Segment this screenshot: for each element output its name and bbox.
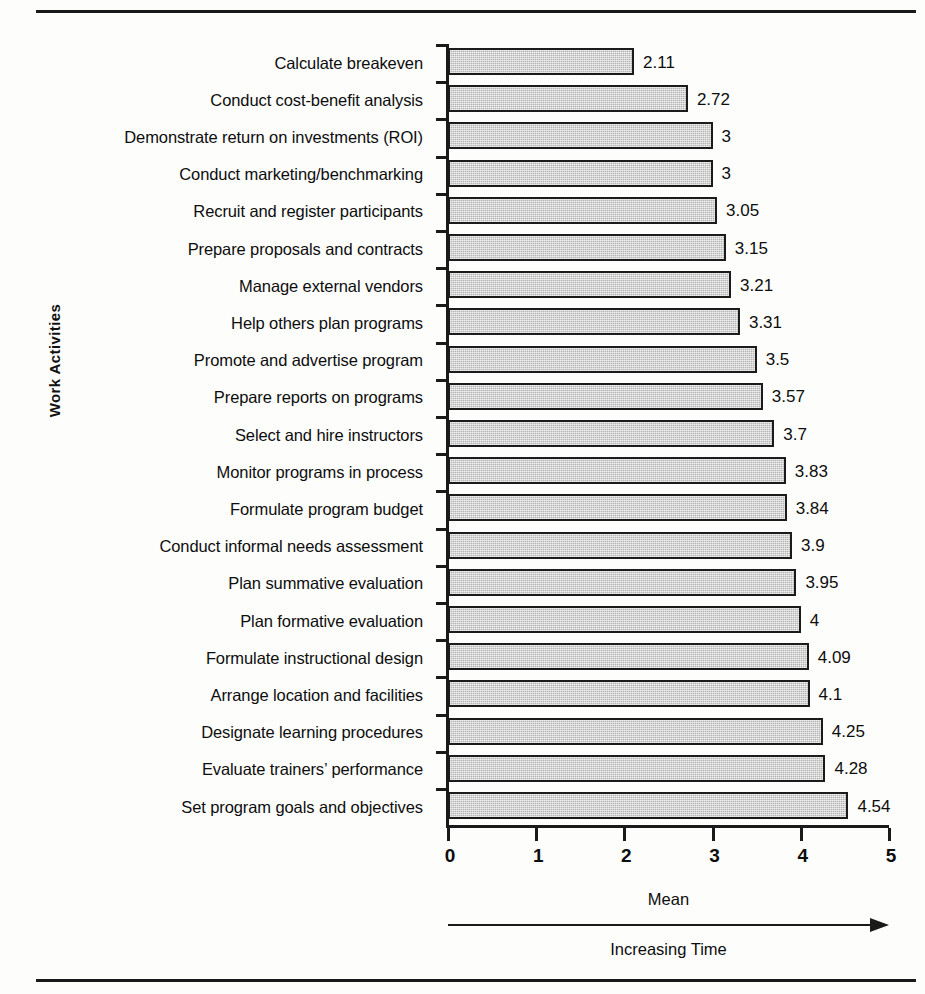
bar-row: Plan formative evaluation4: [0, 602, 925, 639]
arrow-line: [448, 924, 872, 926]
bar-row: Conduct informal needs assessment3.9: [0, 528, 925, 565]
bar-row: Arrange location and facilities4.1: [0, 676, 925, 713]
bar: [448, 606, 801, 633]
y-axis-tick: [436, 193, 448, 196]
y-axis-tick: [436, 156, 448, 159]
bar-value-label: 3.95: [805, 573, 838, 593]
x-axis-title: Mean: [448, 890, 889, 909]
y-axis-tick: [436, 230, 448, 233]
category-label: Help others plan programs: [231, 314, 423, 333]
category-label: Select and hire instructors: [235, 425, 423, 444]
bar: [448, 680, 810, 707]
category-label: Plan summative evaluation: [228, 574, 423, 593]
bar-value-label: 4: [810, 611, 819, 631]
y-axis-tick: [436, 602, 448, 605]
x-axis-tick-label: 5: [871, 845, 911, 867]
x-axis-tick: [712, 828, 715, 841]
bar: [448, 197, 717, 224]
bar: [448, 85, 688, 112]
y-axis-tick: [436, 453, 448, 456]
y-axis-tick: [436, 490, 448, 493]
category-label: Manage external vendors: [239, 276, 423, 295]
bar: [448, 569, 796, 596]
arrow-head-icon: [870, 918, 889, 932]
bar-value-label: 3.7: [783, 425, 807, 445]
bar: [448, 755, 825, 782]
plot-area: Calculate breakeven2.11Conduct cost-bene…: [0, 0, 925, 994]
y-axis-tick: [436, 639, 448, 642]
bar-value-label: 4.1: [819, 685, 843, 705]
category-label: Demonstrate return on investments (ROI): [124, 128, 423, 147]
x-axis-tick-label: 3: [695, 845, 735, 867]
bar-row: Evaluate trainers’ performance4.28: [0, 751, 925, 788]
bar-value-label: 3.9: [801, 536, 825, 556]
category-label: Formulate instructional design: [206, 648, 423, 667]
bar-value-label: 3: [722, 127, 731, 147]
y-axis-tick: [436, 304, 448, 307]
category-label: Plan formative evaluation: [240, 611, 423, 630]
category-label: Formulate program budget: [230, 500, 423, 519]
bar-row: Conduct marketing/benchmarking3: [0, 156, 925, 193]
bar-value-label: 3.83: [795, 462, 828, 482]
category-label: Evaluate trainers’ performance: [202, 760, 423, 779]
bar-row: Designate learning procedures4.25: [0, 714, 925, 751]
bar-value-label: 2.72: [697, 90, 730, 110]
category-label: Calculate breakeven: [274, 53, 423, 72]
category-label: Designate learning procedures: [201, 723, 423, 742]
y-axis-tick: [436, 416, 448, 419]
x-axis-tick: [800, 828, 803, 841]
bar: [448, 494, 787, 521]
category-label: Prepare reports on programs: [214, 388, 423, 407]
category-label: Monitor programs in process: [217, 462, 423, 481]
bar-row: Calculate breakeven2.11: [0, 44, 925, 81]
figure-container: Work Activities Calculate breakeven2.11C…: [0, 0, 925, 994]
category-label: Promote and advertise program: [194, 351, 423, 370]
bar-value-label: 4.28: [834, 759, 867, 779]
x-axis-tick: [623, 828, 626, 841]
bar-row: Formulate instructional design4.09: [0, 639, 925, 676]
bar: [448, 643, 809, 670]
y-axis-tick: [436, 565, 448, 568]
bar: [448, 792, 848, 819]
category-label: Conduct marketing/benchmarking: [179, 165, 423, 184]
bar: [448, 271, 731, 298]
bar-row: Select and hire instructors3.7: [0, 416, 925, 453]
x-axis-tick-label: 1: [518, 845, 558, 867]
bar-row: Prepare proposals and contracts3.15: [0, 230, 925, 267]
bar-row: Help others plan programs3.31: [0, 304, 925, 341]
bar-value-label: 4.09: [818, 648, 851, 668]
category-label: Recruit and register participants: [193, 202, 423, 221]
bar: [448, 234, 726, 261]
x-axis-tick-label: 4: [783, 845, 823, 867]
bar-value-label: 3.5: [766, 350, 790, 370]
y-axis-tick: [436, 676, 448, 679]
bar-row: Formulate program budget3.84: [0, 490, 925, 527]
bar: [448, 383, 763, 410]
bar-row: Conduct cost-benefit analysis2.72: [0, 81, 925, 118]
category-label: Conduct cost-benefit analysis: [210, 90, 423, 109]
arrow-caption: Increasing Time: [448, 940, 889, 959]
increasing-time-arrow: [448, 918, 890, 932]
x-axis-line: [446, 825, 889, 828]
bar: [448, 346, 757, 373]
bar-row: Recruit and register participants3.05: [0, 193, 925, 230]
bar-value-label: 3.15: [735, 239, 768, 259]
bar-value-label: 3.05: [726, 201, 759, 221]
bar-value-label: 3.21: [740, 276, 773, 296]
bar: [448, 532, 792, 559]
bar-value-label: 3.57: [772, 387, 805, 407]
bar-row: Promote and advertise program3.5: [0, 342, 925, 379]
bar-row: Monitor programs in process3.83: [0, 453, 925, 490]
category-label: Arrange location and facilities: [211, 686, 423, 705]
bar-value-label: 4.25: [832, 722, 865, 742]
bar: [448, 457, 786, 484]
bar: [448, 48, 634, 75]
bar-value-label: 3.84: [796, 499, 829, 519]
bar: [448, 160, 713, 187]
y-axis-tick: [436, 714, 448, 717]
bar-value-label: 2.11: [643, 53, 675, 73]
bar-value-label: 3: [722, 164, 731, 184]
bar: [448, 308, 740, 335]
x-axis-tick: [447, 828, 450, 841]
bar: [448, 420, 774, 447]
